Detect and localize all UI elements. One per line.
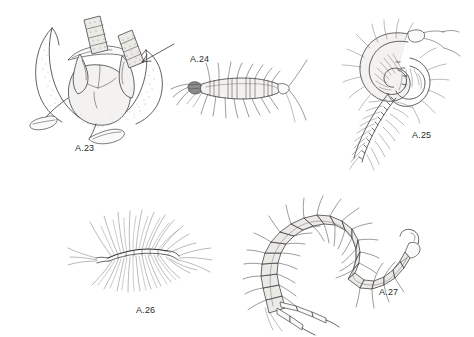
figure-label-a24: A.24 <box>190 54 209 64</box>
figure-a25 <box>324 12 474 172</box>
figure-label-a27: A.27 <box>379 287 398 297</box>
figure-a26-drawing <box>68 198 218 303</box>
figure-label-a23: A.23 <box>75 143 94 153</box>
figure-a27 <box>246 196 426 331</box>
figure-a23 <box>22 14 182 144</box>
figure-a24 <box>170 60 320 132</box>
figure-a25-drawing <box>324 12 474 172</box>
figure-label-a25: A.25 <box>412 130 431 140</box>
figure-a26 <box>68 198 218 303</box>
figure-a23-drawing <box>22 14 182 144</box>
figure-a24-drawing <box>170 60 320 132</box>
figure-plate: A.23 <box>0 0 474 337</box>
a27-tergites <box>261 215 420 313</box>
figure-a27-drawing <box>246 196 426 331</box>
figure-label-a26: A.26 <box>136 305 155 315</box>
